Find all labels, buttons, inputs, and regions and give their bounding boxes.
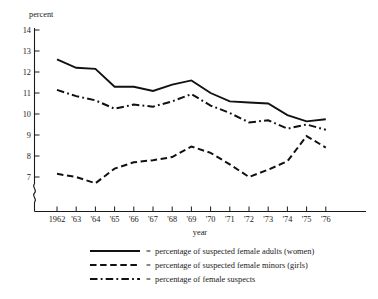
y-tick-label: 12 — [23, 68, 31, 77]
y-tick-labels: 14 13 12 11 10 9 8 7 — [23, 26, 32, 182]
y-tick-label: 11 — [23, 89, 31, 98]
x-tick-label: '72 — [244, 215, 254, 224]
x-tick-label: '68 — [167, 215, 177, 224]
x-tick-group — [57, 207, 326, 212]
x-tick-label: '73 — [263, 215, 273, 224]
series-line-all-suspects — [57, 90, 326, 130]
y-tick-label: 13 — [23, 47, 31, 56]
y-tick-label: 10 — [23, 110, 31, 119]
y-tick-label: 8 — [27, 152, 31, 161]
legend-equals: = — [146, 275, 151, 284]
series-line-women — [57, 59, 326, 121]
series-line-girls — [57, 136, 326, 183]
legend-label-girls: percentage of suspected female minors (g… — [155, 261, 308, 270]
x-tick-label: '65 — [110, 215, 120, 224]
x-tick-labels: 1962'63'64'65'66'67'68'69'70'71'72'73'74… — [49, 215, 331, 224]
x-tick-label: '64 — [91, 215, 102, 224]
legend-label-all-suspects: percentage of female suspects — [155, 275, 255, 284]
y-axis-break-icon — [33, 184, 35, 202]
y-tick-label: 9 — [27, 131, 31, 140]
chart-svg: percent 14 13 12 11 10 9 8 7 — [0, 0, 378, 299]
legend-equals: = — [146, 247, 151, 256]
legend-equals: = — [146, 261, 151, 270]
y-tick-label: 14 — [23, 26, 32, 35]
x-tick-label: '63 — [71, 215, 81, 224]
x-tick-label: '70 — [206, 215, 216, 224]
y-axis-title: percent — [29, 10, 54, 19]
x-tick-label: '67 — [148, 215, 158, 224]
x-tick-label: '69 — [187, 215, 197, 224]
legend: = percentage of suspected female adults … — [90, 247, 314, 284]
x-axis-title: year — [193, 228, 208, 237]
x-tick-label: 1962 — [49, 215, 66, 224]
x-tick-label: '66 — [129, 215, 139, 224]
x-tick-label: '74 — [283, 215, 294, 224]
legend-label-women: percentage of suspected female adults (w… — [155, 247, 314, 256]
x-tick-label: '76 — [321, 215, 331, 224]
chart-figure: percent 14 13 12 11 10 9 8 7 — [0, 0, 378, 299]
y-tick-label: 7 — [27, 173, 31, 182]
x-tick-label: '75 — [302, 215, 312, 224]
x-tick-label: '71 — [225, 215, 235, 224]
y-tick-group — [35, 30, 40, 177]
